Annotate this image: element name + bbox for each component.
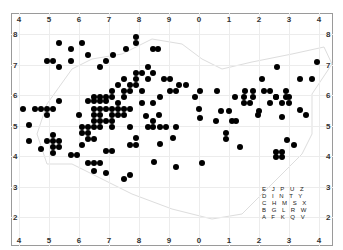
- data-point: [26, 122, 32, 128]
- data-point: [267, 100, 273, 106]
- data-point: [139, 88, 145, 94]
- x-tick-label: 3: [287, 236, 291, 245]
- gridline-vertical: [319, 13, 320, 246]
- gridline-vertical: [199, 13, 200, 246]
- data-point: [279, 154, 285, 160]
- y-tick-label: 4: [13, 152, 17, 161]
- data-point: [157, 94, 163, 100]
- x-tick-label: 5: [47, 236, 51, 245]
- x-tick-label: 2: [257, 15, 261, 24]
- data-point: [115, 100, 121, 106]
- data-point: [133, 40, 139, 46]
- data-point: [109, 124, 115, 130]
- data-point: [68, 46, 74, 52]
- data-point: [44, 138, 50, 144]
- y-tick-label: 2: [326, 213, 330, 222]
- key-row: C H M S X: [262, 200, 308, 207]
- data-point: [79, 40, 85, 46]
- x-tick-label: 4: [17, 236, 21, 245]
- gridline-horizontal: [11, 34, 333, 35]
- data-point: [68, 58, 74, 64]
- data-point: [151, 159, 157, 165]
- x-tick-label: 1: [227, 236, 231, 245]
- y-tick-label: 7: [13, 60, 17, 69]
- data-point: [79, 130, 85, 136]
- gridline-horizontal: [11, 126, 333, 127]
- x-tick-label: 5: [47, 15, 51, 24]
- data-point: [309, 76, 315, 82]
- x-tick-label: 3: [287, 15, 291, 24]
- data-point: [150, 70, 156, 76]
- data-point: [192, 94, 198, 100]
- x-tick-label: 8: [137, 236, 141, 245]
- x-tick-label: 0: [197, 236, 201, 245]
- data-point: [26, 138, 32, 144]
- x-tick-label: 9: [167, 15, 171, 24]
- data-point: [133, 76, 139, 82]
- data-point: [44, 112, 50, 118]
- data-point: [127, 172, 133, 178]
- x-tick-label: 4: [17, 15, 21, 24]
- gridline-vertical: [229, 13, 230, 246]
- data-point: [267, 88, 273, 94]
- data-point: [103, 58, 109, 64]
- data-point: [56, 40, 62, 46]
- x-tick-label: 8: [137, 15, 141, 24]
- data-point: [139, 70, 145, 76]
- data-point: [279, 114, 285, 120]
- data-point: [286, 100, 292, 106]
- gridline-vertical: [19, 13, 20, 246]
- data-point: [197, 115, 203, 121]
- y-tick-label: 2: [13, 213, 17, 222]
- data-point: [127, 88, 133, 94]
- x-tick-label: 1: [227, 15, 231, 24]
- key-row: E J P U Z: [262, 186, 308, 193]
- data-point: [97, 124, 103, 130]
- data-point: [103, 170, 109, 176]
- data-point: [50, 132, 56, 138]
- data-point: [237, 144, 243, 150]
- data-point: [109, 148, 115, 154]
- data-point: [50, 106, 56, 112]
- x-tick-label: 4: [317, 15, 321, 24]
- data-point: [223, 136, 229, 142]
- data-point: [133, 34, 139, 40]
- data-point: [110, 52, 116, 58]
- letter-key-grid: E J P U Z D I N T Y C H M S X B G L R W …: [262, 186, 308, 221]
- data-point: [259, 76, 265, 82]
- gridline-vertical: [139, 13, 140, 246]
- data-point: [121, 176, 127, 182]
- y-tick-label: 3: [13, 182, 17, 191]
- data-point: [133, 82, 139, 88]
- data-point: [121, 76, 127, 82]
- data-point: [150, 100, 156, 106]
- data-point: [303, 112, 309, 118]
- data-point: [196, 106, 202, 112]
- data-point: [297, 107, 303, 113]
- key-row: D I N T Y: [262, 193, 308, 200]
- data-point: [50, 58, 56, 64]
- data-point: [250, 94, 256, 100]
- data-point: [183, 82, 189, 88]
- data-point: [173, 88, 179, 94]
- data-point: [139, 100, 145, 106]
- data-point: [226, 108, 232, 114]
- data-point: [173, 164, 179, 170]
- data-point: [56, 64, 62, 70]
- data-point: [232, 94, 238, 100]
- data-point: [314, 59, 320, 65]
- data-point: [56, 144, 62, 150]
- data-point: [284, 137, 290, 143]
- data-point: [157, 141, 163, 147]
- data-point: [109, 88, 115, 94]
- data-point: [56, 98, 62, 104]
- data-point: [176, 82, 182, 88]
- x-tick-label: 9: [167, 236, 171, 245]
- y-tick-label: 5: [13, 121, 17, 130]
- key-row: B G L R W: [262, 207, 308, 214]
- data-point: [97, 64, 103, 70]
- data-point: [199, 160, 205, 166]
- data-point: [214, 88, 220, 94]
- data-point: [97, 160, 103, 166]
- y-tick-label: 6: [13, 91, 17, 100]
